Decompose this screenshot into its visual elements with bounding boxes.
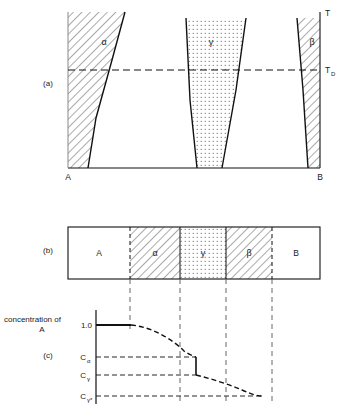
panel-a: (a) α γ β xyxy=(43,8,336,182)
region-beta-a xyxy=(290,14,322,172)
tick-sublabel-c-gamma-star: γ* xyxy=(87,397,93,403)
band-label-gamma: γ xyxy=(201,248,206,258)
tick-label-c-alpha: C xyxy=(80,353,86,362)
tick-sublabel-c-gamma: γ xyxy=(87,376,90,382)
panel-c: (c) concentration of A 1.0 C α C γ C γ* xyxy=(4,310,262,404)
phase-diagram-figure: (a) α γ β xyxy=(0,0,349,404)
tick-label-c-gamma-star: C xyxy=(80,392,86,401)
region-label-alpha-a: α xyxy=(101,37,106,47)
transition-temperature-label: T xyxy=(325,65,330,75)
band-label-a: A xyxy=(96,248,102,258)
figure-canvas: (a) α γ β xyxy=(0,0,349,404)
band-label-alpha: α xyxy=(152,248,157,258)
region-label-gamma-a: γ xyxy=(209,37,214,47)
concentration-descent-upper xyxy=(131,325,196,357)
concentration-descent-lower xyxy=(196,375,262,396)
region-alpha-a xyxy=(60,8,140,172)
band-label-b: B xyxy=(293,248,299,258)
region-gamma-a xyxy=(180,14,254,172)
temperature-axis-label: T xyxy=(325,8,330,18)
tick-sublabel-c-alpha: α xyxy=(87,358,91,364)
region-label-beta-a: β xyxy=(309,37,314,47)
panel-b-caption: (b) xyxy=(43,246,53,255)
tick-label-one: 1.0 xyxy=(81,321,93,330)
panel-connectors xyxy=(130,279,272,404)
endpoint-label-a: A xyxy=(65,172,71,182)
transition-temperature-sublabel: D xyxy=(331,71,336,77)
panel-c-caption: (c) xyxy=(43,351,53,360)
concentration-axis-title-line2: A xyxy=(39,325,45,334)
panel-a-caption: (a) xyxy=(43,79,53,88)
tick-label-c-gamma: C xyxy=(80,371,86,380)
panel-b: (b) A α γ β B xyxy=(43,227,320,279)
concentration-axis-title-line1: concentration of xyxy=(4,315,62,324)
band-label-beta: β xyxy=(246,248,251,258)
endpoint-label-b: B xyxy=(317,172,323,182)
